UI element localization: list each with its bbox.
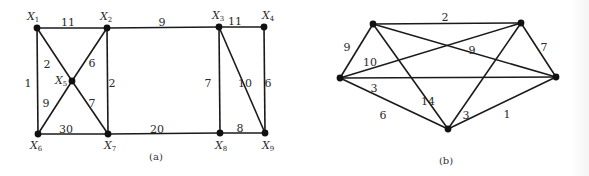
- node-label-X2: X2: [99, 10, 112, 24]
- edge-weight-A-C: 10: [363, 56, 377, 69]
- edge-weight-B-E: 14: [421, 95, 435, 108]
- node-X5: [69, 78, 76, 85]
- node-label-X9: X9: [261, 139, 274, 153]
- node-C: [518, 20, 525, 27]
- edge-weight-A-D: 3: [371, 82, 378, 95]
- node-label-X8: X8: [214, 139, 227, 153]
- edge-weight-A-E: 6: [380, 109, 387, 122]
- node-label-X4: X4: [261, 9, 275, 23]
- edge-weight-X3-X4: 11: [228, 15, 242, 28]
- edge-A-D: [340, 77, 556, 78]
- edge-A-C: [340, 23, 521, 78]
- graph-a-nodes: [34, 24, 269, 138]
- edge-weight-X2-X5: 6: [89, 57, 96, 70]
- node-X1: [34, 25, 41, 32]
- edge-weight-X3-X8: 7: [205, 77, 212, 90]
- edge-weight-B-D: 9: [469, 44, 476, 57]
- node-D: [553, 74, 560, 81]
- edge-weight-X2-X7: 2: [109, 77, 116, 90]
- edge-weight-X1-X5: 2: [44, 58, 51, 71]
- edge-weight-X6-X7: 30: [59, 123, 73, 136]
- edge-weight-X3-X9: 10: [238, 77, 252, 90]
- edge-weight-C-E: 3: [463, 109, 470, 122]
- graph-a: 11911126297302071068 X1X2X3X4X5X6X7X8X9 …: [25, 9, 275, 162]
- graph-b: 297109314631 (b): [337, 11, 560, 166]
- node-X4: [261, 24, 268, 31]
- node-label-X5: X5: [54, 74, 67, 88]
- edge-weight-X1-X6: 1: [25, 77, 32, 90]
- edge-X1-X6: [37, 28, 38, 134]
- node-X2: [104, 25, 111, 32]
- edge-weight-X5-X7: 7: [89, 97, 96, 110]
- node-label-X7: X7: [103, 139, 116, 153]
- graph-b-edges: [340, 23, 556, 129]
- node-label-X1: X1: [26, 10, 39, 24]
- node-X6: [35, 131, 42, 138]
- graph-a-caption: (a): [149, 151, 163, 162]
- edge-weight-X5-X6: 9: [43, 97, 50, 110]
- edge-weight-X1-X2: 11: [61, 16, 75, 29]
- edge-X3-X8: [219, 27, 220, 133]
- node-X9: [262, 130, 269, 137]
- node-label-X3: X3: [211, 9, 224, 23]
- node-X7: [105, 131, 112, 138]
- edge-weight-X7-X8: 20: [150, 123, 164, 136]
- graph-b-nodes: [337, 20, 560, 133]
- edge-weight-C-D: 7: [541, 41, 548, 54]
- edge-weight-X2-X3: 9: [159, 16, 166, 29]
- node-A: [337, 75, 344, 82]
- edge-B-D: [373, 24, 556, 77]
- graph-figure: 11911126297302071068 X1X2X3X4X5X6X7X8X9 …: [0, 0, 589, 176]
- edge-weight-B-C: 2: [442, 11, 449, 24]
- edge-X7-X8: [108, 133, 220, 134]
- page-edge-shadow: [571, 0, 589, 176]
- edge-weight-X8-X9: 8: [237, 122, 244, 135]
- edge-weight-D-E: 1: [504, 108, 511, 121]
- node-E: [445, 126, 452, 133]
- edge-X2-X5: [72, 28, 107, 81]
- node-X8: [217, 130, 224, 137]
- node-B: [370, 21, 377, 28]
- edge-weight-X4-X9: 6: [265, 77, 272, 90]
- node-X3: [216, 24, 223, 31]
- node-label-X6: X6: [29, 139, 43, 153]
- graph-b-caption: (b): [439, 155, 453, 166]
- edge-weight-A-B: 9: [344, 41, 351, 54]
